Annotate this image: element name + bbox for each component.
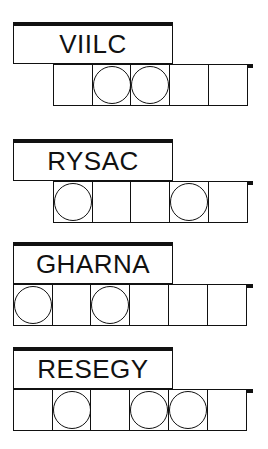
answer-cells bbox=[53, 64, 248, 106]
answer-cell-circled[interactable] bbox=[13, 284, 53, 326]
answer-cell[interactable] bbox=[207, 284, 247, 326]
circle-icon bbox=[53, 391, 91, 429]
answer-cell-circled[interactable] bbox=[92, 64, 132, 106]
answer-cell[interactable] bbox=[92, 181, 132, 223]
answer-cells bbox=[53, 181, 248, 223]
answer-cell[interactable] bbox=[168, 284, 208, 326]
answer-cell[interactable] bbox=[208, 181, 248, 223]
circle-icon bbox=[170, 183, 208, 221]
circle-icon bbox=[131, 66, 169, 104]
circle-icon bbox=[93, 66, 131, 104]
answer-cell[interactable] bbox=[90, 389, 130, 431]
answer-cell-circled[interactable] bbox=[169, 181, 209, 223]
circle-icon bbox=[91, 286, 129, 324]
scrambled-word-label: VIILC bbox=[13, 22, 173, 64]
answer-cell[interactable] bbox=[169, 64, 209, 106]
answer-cell-circled[interactable] bbox=[52, 389, 92, 431]
answer-cell-circled[interactable] bbox=[129, 389, 169, 431]
circle-icon bbox=[14, 286, 52, 324]
answer-cell-circled[interactable] bbox=[90, 284, 130, 326]
answer-cell[interactable] bbox=[208, 64, 248, 106]
answer-cells bbox=[13, 389, 247, 431]
circle-icon bbox=[130, 391, 168, 429]
answer-cell[interactable] bbox=[53, 64, 93, 106]
scrambled-word-label: RYSAC bbox=[13, 139, 173, 181]
scrambled-word-label: GHARNA bbox=[13, 242, 173, 284]
scrambled-word-label: RESEGY bbox=[13, 347, 173, 389]
answer-cell-circled[interactable] bbox=[53, 181, 93, 223]
answer-cell[interactable] bbox=[129, 284, 169, 326]
answer-cell-circled[interactable] bbox=[168, 389, 208, 431]
answer-cell[interactable] bbox=[13, 389, 53, 431]
answer-cell[interactable] bbox=[130, 181, 170, 223]
circle-icon bbox=[54, 183, 92, 221]
answer-cell[interactable] bbox=[207, 389, 247, 431]
answer-cell[interactable] bbox=[52, 284, 92, 326]
circle-icon bbox=[169, 391, 207, 429]
answer-cell-circled[interactable] bbox=[130, 64, 170, 106]
answer-cells bbox=[13, 284, 247, 326]
